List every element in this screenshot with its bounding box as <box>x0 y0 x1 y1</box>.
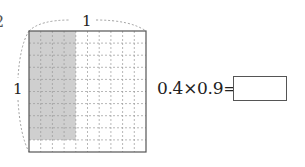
equation: 0.4×0.9= <box>157 78 237 98</box>
left-brace <box>18 31 29 78</box>
answer-box[interactable] <box>233 76 287 101</box>
figure: 2 1 1 0.4×0.9= <box>0 0 305 167</box>
top-brace <box>29 20 70 31</box>
left-length-label: 1 <box>13 80 23 98</box>
top-length-label: 1 <box>82 12 92 30</box>
